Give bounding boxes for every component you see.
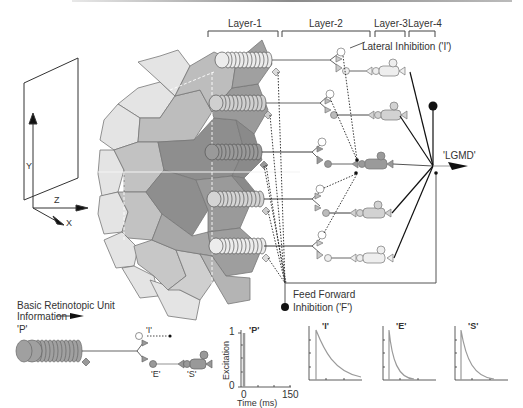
lgmd-network-diagram bbox=[0, 0, 523, 408]
plot-y-min: 0 bbox=[229, 381, 235, 391]
lateral-inhibition-label: Lateral Inhibition ('I') bbox=[362, 42, 451, 52]
layer-1-label: Layer-1 bbox=[228, 19, 262, 29]
unit-title: Basic Retinotopic Unit bbox=[17, 301, 115, 311]
layer-2-label: Layer-2 bbox=[309, 19, 343, 29]
unit-i-label: 'I' bbox=[146, 326, 152, 335]
plot-y-max: 1 bbox=[229, 327, 235, 337]
lgmd-convergence bbox=[392, 72, 433, 258]
layer-3-label: Layer-3 bbox=[374, 19, 408, 29]
unit-s-label: 'S' bbox=[187, 370, 196, 379]
plot-i-title: 'I' bbox=[322, 322, 329, 331]
lgmd-label: 'LGMD' bbox=[443, 151, 476, 161]
unit-p-label: 'P' bbox=[17, 325, 28, 335]
axis-x-label: X bbox=[66, 219, 72, 228]
ff-inhibition-path bbox=[285, 173, 436, 305]
layer2-branches bbox=[262, 54, 368, 258]
lgmd-inhibitory-node bbox=[429, 102, 438, 111]
layer-4-label: Layer-4 bbox=[408, 19, 442, 29]
axis-z-label: Z bbox=[54, 196, 60, 205]
lgmd-output-arrow bbox=[448, 162, 468, 170]
inhibition-target-dot bbox=[355, 158, 359, 162]
plot-s-title: 'S' bbox=[468, 322, 478, 331]
lateral-inhibition-lines bbox=[264, 56, 357, 283]
plot-e-title: 'E' bbox=[396, 322, 406, 331]
ff-inhibition-node bbox=[281, 303, 289, 311]
plot-x-label: Time (ms) bbox=[237, 399, 277, 408]
plot-p bbox=[238, 330, 291, 387]
plot-x-max: 150 bbox=[282, 390, 299, 400]
axis-y-label: Y bbox=[26, 162, 32, 171]
feed-forward-inhibition-label: Inhibition ('F') bbox=[293, 303, 352, 313]
basic-unit-diagram bbox=[16, 333, 212, 370]
plot-i bbox=[309, 326, 362, 380]
ff-target-dot bbox=[434, 171, 438, 175]
plot-p-title: 'P' bbox=[249, 326, 259, 335]
plot-e bbox=[383, 326, 436, 380]
layer-brackets bbox=[208, 31, 435, 37]
plot-y-label: Excitation bbox=[222, 341, 231, 380]
information-label: Information bbox=[17, 312, 67, 322]
inhibition-target-dot bbox=[354, 171, 358, 175]
unit-inhibition-dot bbox=[168, 334, 171, 337]
feed-forward-label: Feed Forward bbox=[293, 290, 355, 300]
plot-s bbox=[455, 326, 508, 380]
layer3-s-cells bbox=[350, 59, 407, 263]
unit-e-label: 'E' bbox=[151, 370, 160, 379]
information-arrow-head bbox=[70, 313, 84, 319]
